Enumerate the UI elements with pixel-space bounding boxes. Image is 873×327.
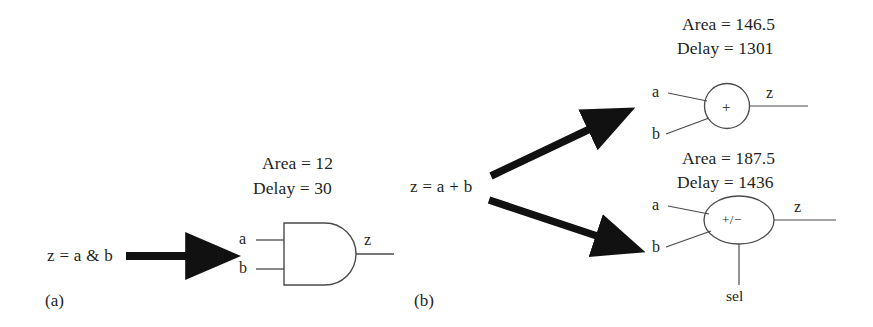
- adder-subtractor-symbol: [666, 196, 836, 285]
- adder-subtractor-input-sel-label: sel: [726, 288, 743, 304]
- adder-input-b-label: b: [652, 126, 660, 142]
- adder-subtractor-input-a-label: a: [652, 197, 659, 213]
- adder-subtractor-area-label: Area = 187.5: [682, 150, 775, 168]
- adder-symbol: [666, 84, 808, 135]
- part-b-expression: z = a + b: [410, 178, 472, 195]
- part-b-lower-branch-arrow: [489, 200, 600, 237]
- adder-subtractor-output-z-label: z: [794, 199, 801, 215]
- and-gate-symbol: [256, 223, 394, 285]
- and-gate-delay-label: Delay = 30: [253, 180, 332, 198]
- part-a-expression: z = a & b: [47, 247, 113, 264]
- adder-delay-label: Delay = 1301: [677, 40, 774, 58]
- caption-a: (a): [45, 292, 64, 309]
- and-gate-output-z-label: z: [364, 232, 371, 248]
- part-b-upper-branch-arrow: [491, 128, 592, 176]
- caption-b: (b): [414, 292, 434, 309]
- adder-area-label: Area = 146.5: [682, 16, 775, 34]
- adder-subtractor-input-b-label: b: [652, 239, 660, 255]
- figure-root: z = a & b Area = 12 Delay = 30 a b z (a)…: [0, 0, 873, 327]
- and-gate-input-b-label: b: [239, 260, 247, 276]
- and-gate-area-label: Area = 12: [262, 155, 333, 173]
- adder-subtractor-delay-label: Delay = 1436: [677, 174, 774, 192]
- and-gate-input-a-label: a: [239, 231, 246, 247]
- adder-input-a-label: a: [652, 84, 659, 100]
- adder-output-z-label: z: [766, 85, 773, 101]
- adder-subtractor-operator-glyph: +/−: [722, 213, 742, 226]
- adder-operator-glyph: +: [722, 100, 731, 115]
